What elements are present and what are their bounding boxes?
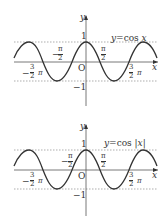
y-tick-1: 1 bbox=[81, 32, 87, 41]
cos-abs-curve bbox=[14, 150, 157, 189]
pi-symbol: π bbox=[137, 178, 142, 185]
origin-label: O bbox=[78, 172, 85, 181]
y-axis-label: y bbox=[80, 122, 85, 131]
x-axis-label: x bbox=[152, 171, 157, 180]
x-tick-neg-3pi-half: 32 bbox=[30, 64, 34, 81]
pi-symbol: π bbox=[38, 178, 43, 185]
plot-cos-abs-x: y 1 −1 O x y=cos |x| π2 − π2 − 32 π 32 π bbox=[0, 112, 167, 224]
x-tick-neg-3pi-half: 32 bbox=[30, 172, 34, 189]
x-tick-3pi-half: 32 bbox=[129, 64, 133, 81]
y-tick-neg1: −1 bbox=[73, 191, 86, 200]
plot-cos-x: y 1 −1 O x y=cos x π2 − π2 − 32 π 32 π bbox=[0, 0, 167, 112]
origin-label: O bbox=[78, 64, 85, 73]
minus-sign: − bbox=[52, 50, 60, 59]
x-axis-label: x bbox=[152, 63, 157, 72]
minus-sign: − bbox=[22, 177, 30, 186]
curve-label: y=cos x bbox=[111, 34, 147, 43]
pi-symbol: π bbox=[38, 70, 43, 77]
x-tick-pi-half: π2 bbox=[101, 46, 106, 63]
y-tick-1: 1 bbox=[81, 140, 87, 149]
curve-label: y=cos |x| bbox=[104, 139, 146, 148]
cos-curve bbox=[14, 42, 157, 81]
y-axis-label: y bbox=[80, 13, 85, 22]
pi-symbol: π bbox=[137, 70, 142, 77]
minus-sign: − bbox=[22, 69, 30, 78]
minus-sign: − bbox=[61, 157, 69, 166]
x-tick-pi-half: π2 bbox=[101, 153, 106, 170]
x-tick-3pi-half: 32 bbox=[129, 172, 133, 189]
y-tick-neg1: −1 bbox=[73, 83, 86, 92]
x-tick-neg-pi-half: π2 bbox=[68, 153, 73, 170]
